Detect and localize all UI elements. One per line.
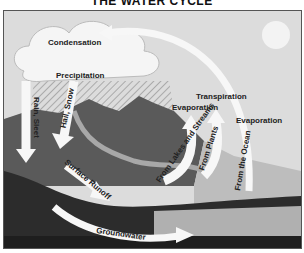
diagram-title: THE WATER CYCLE	[0, 0, 304, 8]
water-cycle-diagram: Condensation Precipitation Rain, Sleet H…	[3, 10, 302, 249]
diagram-canvas: Condensation Precipitation Rain, Sleet H…	[4, 11, 301, 248]
sun-icon	[262, 21, 290, 49]
label-condensation: Condensation	[48, 38, 101, 47]
label-evaporation-ocean: Evaporation	[236, 116, 282, 125]
label-precipitation: Precipitation	[56, 71, 105, 80]
label-transpiration: Transpiration	[196, 92, 247, 101]
label-rain-sleet: Rain, Sleet	[32, 97, 41, 138]
